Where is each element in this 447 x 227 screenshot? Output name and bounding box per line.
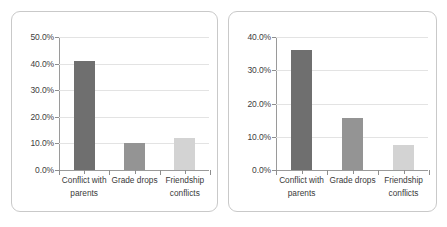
category-axis-left: Conflict withparentsGrade drops Friendsh… [59,174,209,214]
category-label-line: conflicts [378,187,429,200]
chart-board: 0.0%10.0%20.0%30.0%40.0%50.0% Conflict w… [0,0,447,227]
category-label-line: parents [276,187,327,200]
category-label: Friendshipconflicts [378,174,429,199]
y-axis-tick-label: 30.0% [30,85,54,95]
plot-area-right: 0.0%10.0%20.0%30.0%40.0% [276,37,428,170]
bar-chart-left: 0.0%10.0%20.0%30.0%40.0%50.0% Conflict w… [12,12,217,211]
category-label-line: conflicts [160,187,210,200]
bar [393,145,414,170]
category-label: Conflict withparents [276,174,327,199]
category-label-line: Friendship [378,174,429,187]
category-label: Grade drops [327,174,378,199]
bar-chart-right: 0.0%10.0%20.0%30.0%40.0% Conflict withpa… [229,12,436,211]
bar [174,138,195,170]
y-axis-tick-label: 20.0% [30,112,54,122]
category-label: Grade drops [109,174,159,199]
category-label-line [109,187,159,200]
y-axis-tick-label: 40.0% [247,32,271,42]
chart-panel-left: 0.0%10.0%20.0%30.0%40.0%50.0% Conflict w… [11,11,218,212]
chart-panel-right: 0.0%10.0%20.0%30.0%40.0% Conflict withpa… [228,11,437,212]
bar [342,118,363,170]
category-label-line: Grade drops [109,174,159,187]
y-axis-tick-label: 20.0% [247,99,271,109]
bar [74,61,95,170]
category-label-line: Friendship [160,174,210,187]
y-axis-tick-label: 0.0% [252,165,271,175]
category-label: Conflict withparents [59,174,109,199]
x-axis-tick-boundary [429,170,430,175]
category-label-line: parents [59,187,109,200]
bar-series [276,37,428,170]
bar [124,143,145,170]
plot-area-left: 0.0%10.0%20.0%30.0%40.0%50.0% [59,37,209,170]
y-axis-tick-label: 40.0% [30,59,54,69]
y-axis-tick-label: 10.0% [30,138,54,148]
category-label-line: Conflict with [276,174,327,187]
y-axis-tick-label: 10.0% [247,132,271,142]
y-axis-tick-label: 0.0% [35,165,54,175]
category-label-line: Grade drops [327,174,378,187]
y-axis-tick-label: 30.0% [247,65,271,75]
category-label-line: Conflict with [59,174,109,187]
category-axis-right: Conflict withparentsGrade drops Friendsh… [276,174,428,214]
category-label: Friendshipconflicts [160,174,210,199]
category-label-line [327,187,378,200]
bar-series [59,37,209,170]
x-axis-tick-boundary [210,170,211,175]
bar [291,50,312,170]
y-axis-tick-label: 50.0% [30,32,54,42]
